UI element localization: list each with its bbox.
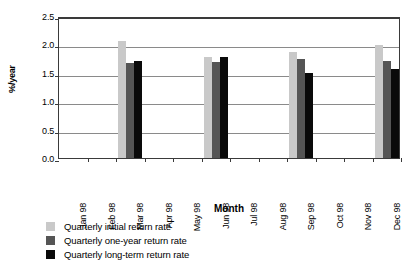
bar <box>289 52 297 158</box>
legend-label: Quarterly long-term return rate <box>64 249 189 260</box>
bar <box>212 62 220 158</box>
plot-area <box>58 17 400 159</box>
bar <box>220 57 228 158</box>
y-axis-title: %/year <box>7 49 17 109</box>
bar <box>383 61 391 158</box>
legend-swatch <box>46 250 55 259</box>
bar <box>391 69 399 158</box>
y-axis-tick-label: 1.0 <box>26 97 54 107</box>
y-axis-tick-labels: 0.00.51.01.52.02.5 <box>26 12 54 164</box>
legend-swatch <box>46 236 55 245</box>
bar <box>375 45 383 158</box>
x-axis-tickmark <box>401 158 402 162</box>
legend-label: Quarterly one-year return rate <box>64 235 187 246</box>
bar <box>204 57 212 158</box>
bar <box>118 41 126 158</box>
legend-label: Quarterly initial return rate <box>64 221 171 232</box>
bar-chart: %/year 0.00.51.01.52.02.5 Jan 98Feb 98Ma… <box>0 0 419 277</box>
y-axis-tick-label: 2.0 <box>26 40 54 50</box>
bar <box>305 73 313 158</box>
y-axis-tick-label: 0.5 <box>26 126 54 136</box>
bar <box>126 63 134 158</box>
x-axis-tick-labels: Jan 98Feb 98Mar 98Apr 98May 98Jun 98Jul … <box>58 161 400 205</box>
y-axis-tick-label: 2.5 <box>26 12 54 22</box>
legend-swatch <box>46 222 55 231</box>
y-axis-tick-label: 1.5 <box>26 69 54 79</box>
legend-item: Quarterly initial return rate <box>46 219 306 233</box>
chart-legend: Quarterly initial return rateQuarterly o… <box>46 219 306 261</box>
legend-item: Quarterly one-year return rate <box>46 233 306 247</box>
bar <box>134 61 142 158</box>
bar <box>297 59 305 158</box>
bars-layer <box>59 19 399 158</box>
y-axis-tick-label: 0.0 <box>26 154 54 164</box>
x-axis-title: Month <box>58 203 400 214</box>
legend-item: Quarterly long-term return rate <box>46 247 306 261</box>
